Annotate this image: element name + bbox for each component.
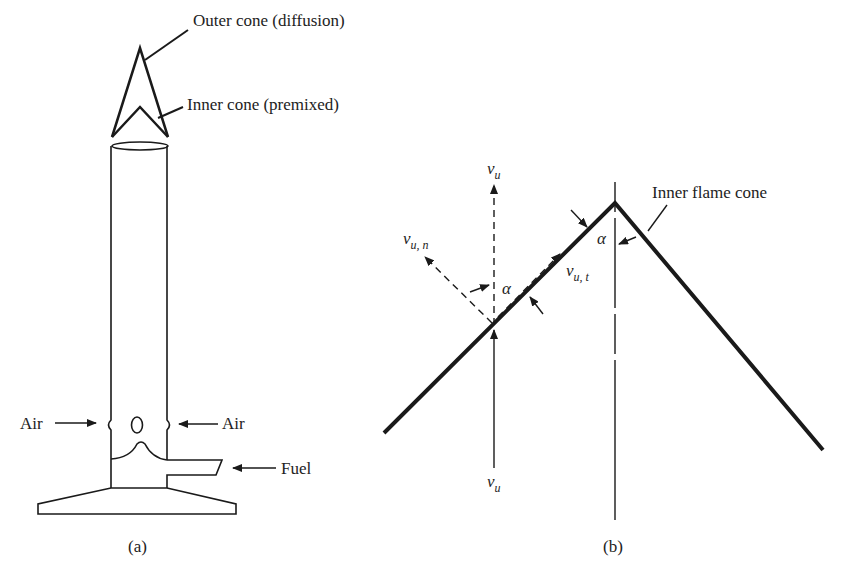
- bunsen-burner-figure: Outer cone (diffusion) Inner cone (premi…: [0, 0, 843, 581]
- tube-left-wall: [109, 146, 112, 488]
- inner-flame-cone-label: Inner flame cone: [652, 184, 767, 201]
- outer-cone: [112, 48, 168, 137]
- vu-bottom-label: vu: [487, 473, 501, 490]
- fuel-pipe: [167, 460, 222, 488]
- outer-cone-label: Outer cone (diffusion): [193, 12, 345, 29]
- figure-drawing: [0, 0, 843, 581]
- caption-b: (b): [603, 538, 623, 555]
- alpha-left-label: α: [502, 280, 511, 297]
- air-right-label: Air: [222, 415, 245, 432]
- vun-label: vu, n: [403, 230, 429, 247]
- vu-top-label: vu: [487, 160, 501, 177]
- air-left-label: Air: [20, 415, 43, 432]
- air-hole: [132, 417, 143, 433]
- vut-label: vu, t: [566, 262, 589, 279]
- fuel-label: Fuel: [281, 460, 311, 477]
- burner-base: [38, 488, 236, 514]
- inner-cone-label: Inner cone (premixed): [187, 96, 339, 113]
- caption-a: (a): [128, 538, 147, 555]
- alpha-right-label: α: [597, 230, 606, 247]
- tube-right-wall: [167, 146, 170, 460]
